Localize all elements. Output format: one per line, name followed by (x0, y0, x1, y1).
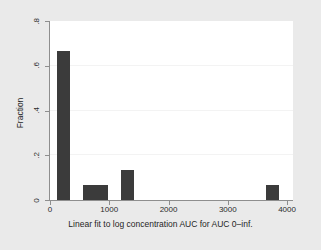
y-tick-label-text: .4 (31, 104, 42, 117)
y-tick-label-text: .6 (31, 59, 42, 72)
y-axis-line (49, 21, 50, 201)
x-tick-label: 4000 (278, 205, 296, 214)
y-tick-mark (45, 155, 49, 156)
x-axis-line (49, 200, 293, 201)
histogram-bar (121, 170, 134, 200)
histogram-figure: 0.2.4.6.8 01000200030004000 Fraction Lin… (0, 0, 321, 250)
x-axis-title-label: Linear fit to log concentration AUC for … (68, 219, 252, 229)
y-tick-mark (45, 21, 49, 22)
histogram-bar (57, 51, 70, 200)
y-tick-label-text: .2 (31, 149, 42, 162)
x-tick-label: 1000 (100, 205, 118, 214)
y-tick-label: 0 (30, 195, 43, 206)
y-tick-label: .8 (30, 16, 43, 27)
y-axis-title: Fraction (12, 84, 28, 142)
y-tick-mark (45, 111, 49, 112)
y-tick-label: .2 (30, 150, 43, 161)
histogram-bar (83, 185, 96, 200)
y-tick-label-text: .8 (31, 15, 42, 28)
y-tick-mark (45, 66, 49, 67)
x-tick-label: 2000 (160, 205, 178, 214)
x-axis-title: Linear fit to log concentration AUC for … (0, 219, 321, 229)
histogram-bar (266, 185, 279, 200)
y-tick-label: .4 (30, 105, 43, 116)
x-tick-label: 3000 (219, 205, 237, 214)
y-axis-title-label: Fraction (15, 98, 25, 129)
y-tick-mark (45, 200, 49, 201)
x-tick-label: 0 (48, 205, 52, 214)
y-tick-label-text: 0 (31, 194, 42, 207)
plot-area (50, 21, 293, 200)
histogram-bar (95, 185, 108, 200)
bars-layer (50, 21, 293, 200)
y-tick-label: .6 (30, 60, 43, 71)
